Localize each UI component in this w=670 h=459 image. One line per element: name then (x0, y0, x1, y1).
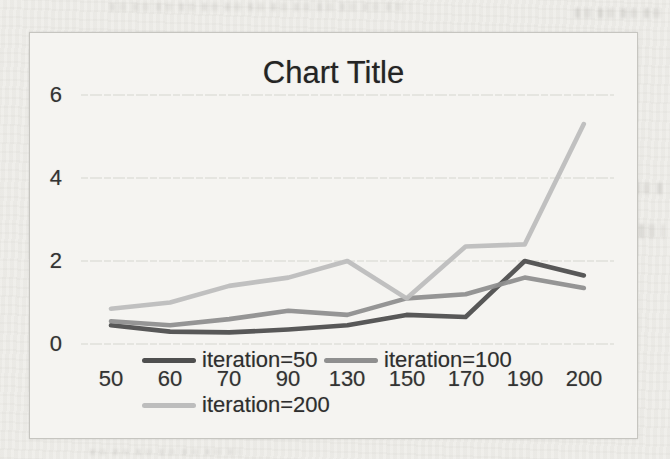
y-axis-tick-0: 0 (32, 331, 62, 357)
x-axis-tick-50: 50 (99, 367, 123, 391)
scan-bleed-smudge (575, 8, 660, 18)
scan-bleed-smudge (110, 3, 410, 11)
legend-swatch-iteration-50 (142, 358, 196, 363)
legend-swatch-iteration-100 (324, 358, 378, 363)
legend-label-iteration-200: iteration=200 (202, 392, 330, 418)
series-line-iteration=50 (111, 261, 584, 332)
legend-item-iteration-50: iteration=50 (142, 347, 318, 373)
legend-item-iteration-100: iteration=100 (324, 347, 512, 373)
legend-label-iteration-100: iteration=100 (384, 347, 512, 373)
legend-swatch-iteration-200 (142, 403, 196, 408)
y-axis-tick-2: 2 (32, 248, 62, 274)
scanned-page: { "chart": { "title": "Chart Title", "y_… (0, 0, 670, 459)
x-axis-tick-200: 200 (566, 367, 603, 391)
x-axis-tick-190: 190 (507, 367, 544, 391)
y-axis-tick-6: 6 (32, 82, 62, 108)
legend-item-iteration-200: iteration=200 (142, 392, 330, 418)
chart-container: Chart Title 6 4 2 0 50 60 70 90 130 150 … (29, 32, 638, 439)
y-axis-tick-4: 4 (32, 165, 62, 191)
legend-label-iteration-50: iteration=50 (202, 347, 318, 373)
scan-bleed-smudge (90, 449, 240, 455)
